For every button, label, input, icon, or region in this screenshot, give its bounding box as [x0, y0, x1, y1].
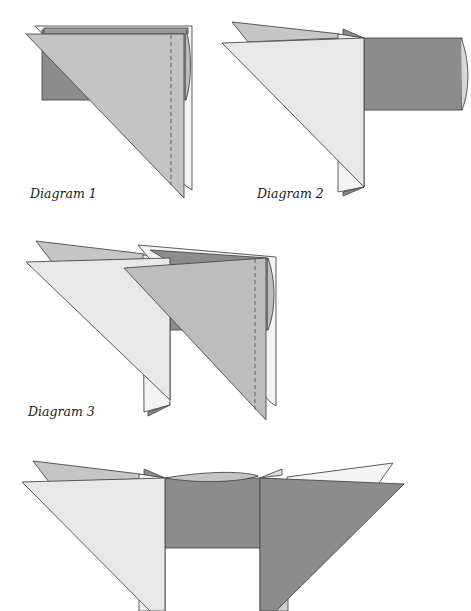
- right-front-triangle: [260, 478, 404, 611]
- left-front-triangle: [22, 478, 165, 611]
- curl-edge: [461, 38, 468, 110]
- center-dark-rectangle: [165, 478, 260, 548]
- dark-rectangle: [364, 38, 462, 110]
- diagram-2-label: Diagram 2: [257, 186, 324, 201]
- front-triangle: [26, 34, 184, 198]
- diagram-3-figure: [26, 241, 276, 420]
- diagram-1-label: Diagram 1: [30, 186, 97, 201]
- diagram-2-figure: [222, 22, 468, 196]
- top-strip: [44, 28, 188, 34]
- diagram-1-figure: [26, 26, 192, 198]
- diagram-3-label: Diagram 3: [28, 404, 95, 419]
- folding-diagram-canvas: [0, 0, 471, 611]
- front-triangle: [222, 38, 364, 187]
- diagram-4-figure: [22, 461, 404, 611]
- right-small-tab: [260, 469, 282, 478]
